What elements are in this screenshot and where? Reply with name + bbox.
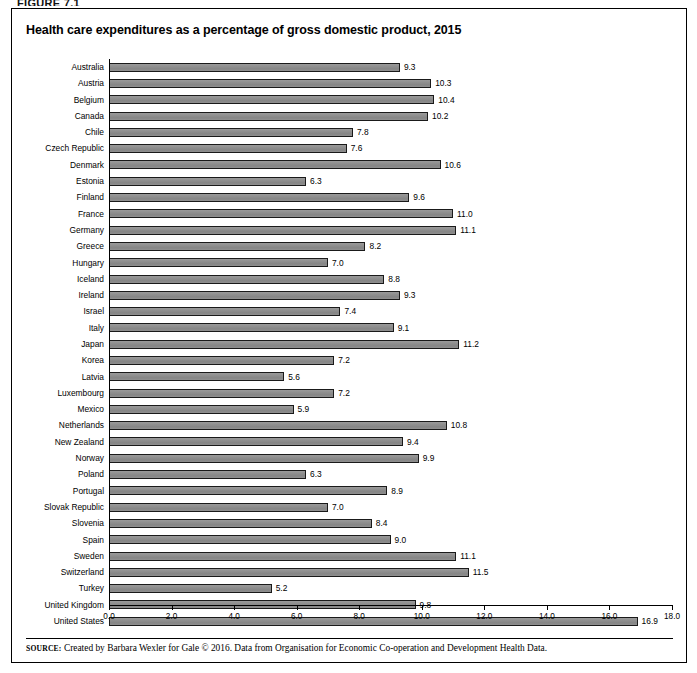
bar-track: 9.9 — [109, 450, 672, 466]
bar — [109, 258, 328, 267]
bar-row: Australia9.3 — [26, 59, 672, 75]
bar-value-label: 7.8 — [357, 128, 369, 136]
bar — [109, 226, 456, 235]
bar — [109, 535, 391, 544]
bar — [109, 242, 365, 251]
bar-track: 9.3 — [109, 59, 672, 75]
bar-value-label: 5.2 — [276, 584, 288, 592]
bar-row: Poland6.3 — [26, 466, 672, 482]
bar — [109, 470, 306, 479]
category-label: Czech Republic — [26, 144, 109, 152]
bar-track: 11.0 — [109, 206, 672, 222]
x-axis-line — [109, 605, 672, 606]
bar-row: Denmark10.6 — [26, 157, 672, 173]
bar-value-label: 5.6 — [288, 373, 300, 381]
bar-track: 7.0 — [109, 255, 672, 271]
bar-row: Sweden11.1 — [26, 548, 672, 564]
bar-row: Netherlands10.8 — [26, 418, 672, 434]
bar-value-label: 8.8 — [388, 275, 400, 283]
bar — [109, 63, 400, 72]
category-label: France — [26, 210, 109, 218]
x-tick-label: 18.0 — [664, 612, 680, 621]
category-label: Austria — [26, 79, 109, 87]
bar-row: Slovak Republic7.0 — [26, 499, 672, 515]
category-label: Canada — [26, 112, 109, 120]
chart-plot-area: Australia9.3Austria10.3Belgium10.4Canada… — [26, 51, 672, 634]
bar — [109, 584, 272, 593]
bar — [109, 486, 387, 495]
source-text: Created by Barbara Wexler for Gale © 201… — [64, 643, 547, 653]
category-label: Switzerland — [26, 568, 109, 576]
x-tick-label: 4.0 — [228, 612, 239, 621]
bar-value-label: 6.3 — [310, 177, 322, 185]
x-tick-mark — [172, 605, 173, 610]
bar-row: Greece8.2 — [26, 238, 672, 254]
bar-value-label: 11.5 — [473, 568, 489, 576]
category-label: Poland — [26, 470, 109, 478]
bar-row: Korea7.2 — [26, 352, 672, 368]
x-tick-mark — [484, 605, 485, 610]
x-tick-label: 0.0 — [103, 612, 114, 621]
bar-track: 9.0 — [109, 532, 672, 548]
bar-row: Ireland9.3 — [26, 287, 672, 303]
category-label: Luxembourg — [26, 389, 109, 397]
bar-row: Iceland8.8 — [26, 271, 672, 287]
bar — [109, 128, 353, 137]
bar-row: Germany11.1 — [26, 222, 672, 238]
category-label: New Zealand — [26, 438, 109, 446]
bar-value-label: 8.9 — [391, 487, 403, 495]
x-tick-label: 12.0 — [476, 612, 492, 621]
bar-track: 10.3 — [109, 75, 672, 91]
category-label: Portugal — [26, 487, 109, 495]
bar — [109, 389, 334, 398]
bar-row: Israel7.4 — [26, 303, 672, 319]
bar — [109, 568, 469, 577]
bar-row: Turkey5.2 — [26, 581, 672, 597]
bar — [109, 617, 638, 626]
bar-value-label: 16.9 — [642, 617, 658, 625]
bar-track: 16.9 — [109, 613, 672, 629]
bar-track: 11.1 — [109, 548, 672, 564]
bar-track: 9.4 — [109, 434, 672, 450]
bar-value-label: 10.6 — [445, 161, 461, 169]
figure-number-label: FIGURE 7.1 — [17, 0, 80, 6]
bar-value-label: 9.3 — [404, 63, 416, 71]
bar-row: France11.0 — [26, 206, 672, 222]
bar-value-label: 6.3 — [310, 470, 322, 478]
bar-track: 9.1 — [109, 320, 672, 336]
category-label: Spain — [26, 536, 109, 544]
bar — [109, 405, 294, 414]
category-label: Estonia — [26, 177, 109, 185]
bar — [109, 437, 403, 446]
bar-value-label: 11.1 — [460, 552, 476, 560]
bar-row: Slovenia8.4 — [26, 515, 672, 531]
bar-row: Luxembourg7.2 — [26, 385, 672, 401]
bar — [109, 503, 328, 512]
bar-value-label: 5.9 — [298, 405, 310, 413]
category-label: Ireland — [26, 291, 109, 299]
bar — [109, 421, 447, 430]
bar-row: Portugal8.9 — [26, 483, 672, 499]
source-divider — [26, 638, 673, 639]
bar-value-label: 10.8 — [451, 421, 467, 429]
bar-row: New Zealand9.4 — [26, 434, 672, 450]
x-tick-mark — [609, 605, 610, 610]
bar-value-label: 10.4 — [438, 96, 454, 104]
bar-row: Finland9.6 — [26, 189, 672, 205]
bar — [109, 193, 409, 202]
category-label: Israel — [26, 307, 109, 315]
bar-row: Austria10.3 — [26, 75, 672, 91]
bar-track: 7.2 — [109, 385, 672, 401]
bar-track: 7.6 — [109, 140, 672, 156]
bar — [109, 177, 306, 186]
bar-track: 8.9 — [109, 483, 672, 499]
bar-value-label: 11.1 — [460, 226, 476, 234]
bar — [109, 160, 441, 169]
source-note: SOURCE: Created by Barbara Wexler for Ga… — [26, 643, 681, 654]
bar-track: 10.2 — [109, 108, 672, 124]
bar-value-label: 9.6 — [413, 193, 425, 201]
category-label: Chile — [26, 128, 109, 136]
category-label: Japan — [26, 340, 109, 348]
category-label: Korea — [26, 356, 109, 364]
bar-value-label: 9.9 — [423, 454, 435, 462]
